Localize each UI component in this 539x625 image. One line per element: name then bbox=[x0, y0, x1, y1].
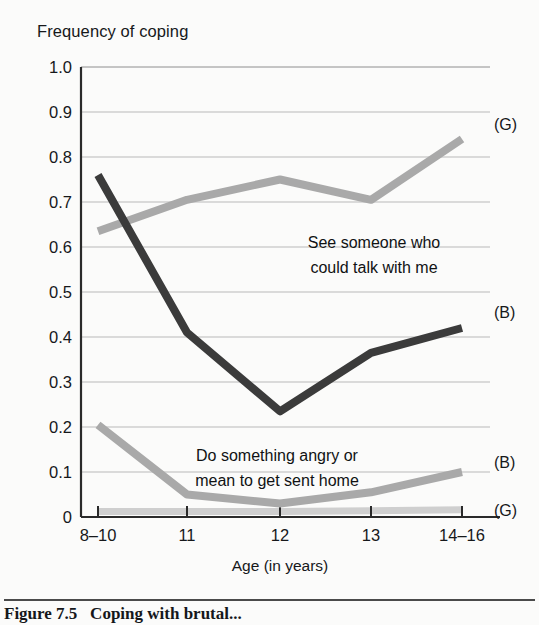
xtick-label-11: 11 bbox=[178, 526, 195, 544]
xtick-label-12: 12 bbox=[271, 526, 289, 544]
annotation-angry-line2: mean to get sent home bbox=[195, 472, 359, 489]
figure-caption: Figure 7.5 Coping with brutal... bbox=[4, 604, 535, 625]
annotation-angry: Do something angry or mean to get sent h… bbox=[195, 447, 359, 489]
series-line-talk-g bbox=[98, 139, 462, 231]
series-tag-talk-g: (G) bbox=[494, 116, 517, 133]
caption-label: Figure 7.5 bbox=[4, 604, 77, 623]
ytick-label-0-5: 0.5 bbox=[49, 283, 72, 301]
caption-body: Coping with brutal... bbox=[90, 604, 242, 623]
ytick-label-0-9: 0.9 bbox=[49, 103, 72, 121]
annotation-talk-line1: See someone who bbox=[308, 234, 441, 251]
ytick-label-0-7: 0.7 bbox=[49, 193, 72, 211]
ytick-label-1-0: 1.0 bbox=[49, 58, 72, 76]
series-tag-talk-b: (B) bbox=[494, 304, 515, 321]
annotation-talk: See someone who could talk with me bbox=[308, 234, 441, 276]
ytick-label-0-6: 0.6 bbox=[49, 238, 72, 256]
x-axis-title: Age (in years) bbox=[232, 557, 328, 574]
series-line-angry-b bbox=[98, 425, 462, 504]
ytick-label-0-4: 0.4 bbox=[49, 328, 72, 346]
ytick-label-0-8: 0.8 bbox=[49, 148, 72, 166]
annotation-angry-line1: Do something angry or bbox=[196, 447, 359, 464]
figure-container: Frequency of coping bbox=[0, 0, 539, 625]
ytick-label-0-1: 0.1 bbox=[49, 463, 72, 481]
ytick-label-0: 0 bbox=[63, 508, 72, 526]
line-chart: 1.0 0.9 0.8 0.7 0.6 0.5 0.4 0.3 0.2 0.1 … bbox=[0, 0, 539, 600]
xtick-label-8-10: 8–10 bbox=[80, 526, 117, 544]
ytick-label-0-2: 0.2 bbox=[49, 418, 72, 436]
series-tag-angry-g: (G) bbox=[494, 502, 517, 519]
series-tag-angry-b: (B) bbox=[494, 454, 515, 471]
annotation-talk-line2: could talk with me bbox=[310, 259, 437, 276]
ytick-label-0-3: 0.3 bbox=[49, 373, 72, 391]
xtick-label-13: 13 bbox=[362, 526, 380, 544]
xtick-label-14-16: 14–16 bbox=[439, 526, 485, 544]
caption-divider bbox=[4, 599, 535, 601]
